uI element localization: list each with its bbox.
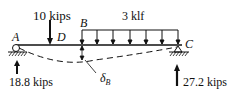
distributed-load-label: 3 klf bbox=[122, 10, 144, 22]
point-load-label: 10 kips bbox=[33, 9, 71, 22]
point-load-arrow bbox=[47, 20, 53, 45]
deflection-subscript: B bbox=[106, 78, 111, 87]
left-reaction-label: 18.8 kips bbox=[9, 76, 53, 88]
point-c-label: C bbox=[185, 38, 193, 50]
deflected-shape bbox=[19, 47, 177, 62]
point-a-label: A bbox=[12, 31, 19, 43]
point-d-label: D bbox=[57, 31, 66, 43]
right-reaction-label: 27.2 kips bbox=[183, 76, 227, 88]
right-reaction-arrow bbox=[174, 64, 180, 86]
beam-diagram: 10 kips 3 klf B A D C δB 18.8 kips 27.2 … bbox=[0, 0, 234, 97]
point-b-label: B bbox=[80, 17, 87, 29]
deflection-label: δB bbox=[100, 72, 110, 87]
distributed-load-arrows bbox=[80, 30, 180, 44]
left-reaction-arrow bbox=[14, 60, 20, 74]
deflection-marker bbox=[80, 46, 96, 73]
